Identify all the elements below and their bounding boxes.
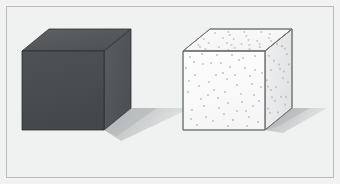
speckle-dot xyxy=(187,91,189,93)
speckle-dot xyxy=(284,48,286,50)
speckle-dot xyxy=(266,79,268,81)
speckle-dot xyxy=(245,35,247,37)
speckle-dot xyxy=(200,98,202,100)
speckle-dot xyxy=(240,43,242,45)
speckle-dot xyxy=(242,57,244,59)
figure-plate: Dark solid cube Light speckled cube Two … xyxy=(7,7,333,177)
speckle-dot xyxy=(204,48,206,50)
speckle-dot xyxy=(260,86,262,88)
speckle-dot xyxy=(222,72,224,74)
speckle-dot xyxy=(254,55,256,57)
speckle-dot xyxy=(236,84,238,86)
speckle-dot xyxy=(227,31,229,33)
speckle-dot xyxy=(241,101,243,103)
figure-root: Dark solid cube Light speckled cube Two … xyxy=(0,0,340,184)
speckle-dot xyxy=(190,118,192,120)
speckle-dot xyxy=(231,54,233,56)
speckle-dot xyxy=(208,42,210,44)
dark-cube xyxy=(22,29,131,130)
cubes-illustration xyxy=(7,7,333,177)
speckle-dot xyxy=(277,111,279,113)
speckle-dot xyxy=(217,97,219,99)
speckle-dot xyxy=(216,54,218,56)
speckle-dot xyxy=(248,116,250,118)
speckle-dot xyxy=(283,70,285,72)
speckle-dot xyxy=(185,67,187,69)
speckle-dot xyxy=(197,44,199,46)
speckled-cube-front-face xyxy=(183,51,265,130)
speckle-dot xyxy=(268,37,270,39)
speckle-dot xyxy=(193,61,195,63)
speckle-dot xyxy=(251,83,253,85)
speckle-dot xyxy=(248,48,250,50)
speckle-dot xyxy=(244,67,246,69)
speckle-dot xyxy=(252,105,254,107)
speckle-dot xyxy=(273,60,275,62)
speckle-dot xyxy=(249,75,251,77)
speckle-dot xyxy=(203,38,205,40)
speckle-dot xyxy=(270,69,272,71)
speckle-dot xyxy=(191,109,193,111)
speckle-dot xyxy=(282,77,284,79)
speckle-dot xyxy=(243,31,245,33)
speckle-dot xyxy=(260,31,262,33)
speckle-dot xyxy=(208,81,210,83)
speckle-dot xyxy=(203,105,205,107)
speckle-dot xyxy=(201,53,203,55)
speckle-dot xyxy=(229,66,231,68)
speckle-dot xyxy=(198,85,200,87)
speckle-dot xyxy=(269,33,271,35)
speckle-dot xyxy=(205,116,207,118)
speckle-dot xyxy=(278,63,280,65)
speckle-dot xyxy=(288,63,290,65)
speckle-dot xyxy=(220,62,222,64)
speckle-dot xyxy=(234,47,236,49)
speckle-dot xyxy=(227,102,229,104)
speckle-dot xyxy=(270,40,272,42)
speckle-dot xyxy=(245,110,247,112)
speckle-dot xyxy=(218,46,220,48)
speckle-dot xyxy=(267,85,269,87)
speckle-dot xyxy=(276,43,278,45)
speckle-dot xyxy=(274,100,276,102)
speckle-dot xyxy=(213,89,215,91)
speckle-dot xyxy=(236,110,238,112)
speckle-dot xyxy=(270,89,272,91)
speckle-dot xyxy=(188,80,190,82)
speckle-dot xyxy=(233,38,235,40)
speckle-dot xyxy=(275,86,277,88)
speckle-dot xyxy=(196,124,198,126)
speckle-dot xyxy=(268,55,270,57)
speckle-dot xyxy=(199,46,201,48)
speckle-dot xyxy=(279,68,281,70)
speckle-dot xyxy=(234,74,236,76)
speckle-dot xyxy=(254,69,256,71)
speckle-dot xyxy=(210,62,212,64)
speckle-dot xyxy=(259,46,261,48)
speckle-dot xyxy=(280,96,282,98)
speckle-dot xyxy=(194,74,196,76)
figure-frame: Dark solid cube Light speckled cube Two … xyxy=(6,6,334,178)
speckle-dot xyxy=(257,121,259,123)
speckle-dot xyxy=(281,45,283,47)
speckle-dot xyxy=(287,81,289,83)
speckle-dot xyxy=(229,34,231,36)
speckle-dot xyxy=(215,74,217,76)
speckle-dot xyxy=(232,119,234,121)
speckle-dot xyxy=(247,39,249,41)
speckle-dot xyxy=(248,44,250,46)
speckle-dot xyxy=(230,44,232,46)
speckle-dot xyxy=(258,100,260,102)
speckle-dot xyxy=(189,56,191,58)
speckle-dot xyxy=(218,107,220,109)
speckle-dot xyxy=(267,107,269,109)
speckle-dot xyxy=(258,43,260,45)
speckle-dot xyxy=(226,42,228,44)
speckle-dot xyxy=(253,94,255,96)
speckle-dot xyxy=(240,93,242,95)
speckled-cube xyxy=(183,29,292,130)
speckle-dot xyxy=(238,59,240,61)
speckle-dot xyxy=(202,63,204,65)
speckle-dot xyxy=(271,96,273,98)
speckle-dot xyxy=(269,112,271,114)
